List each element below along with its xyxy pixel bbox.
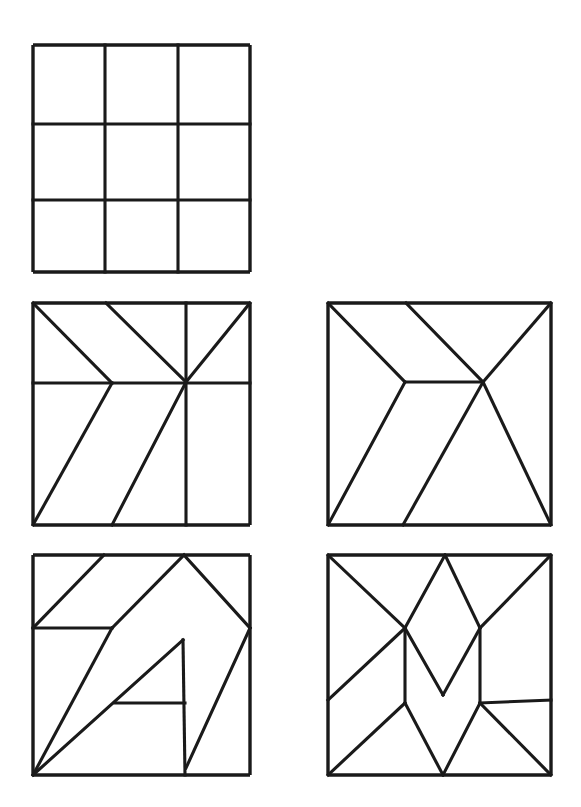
figure-segment — [183, 640, 185, 775]
figure-sheet — [0, 0, 581, 807]
figure-canvas — [0, 0, 581, 807]
